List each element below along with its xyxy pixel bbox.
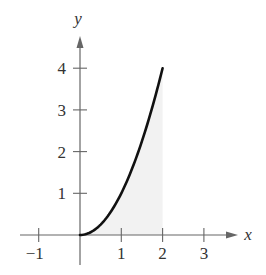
x-tick-label: 1: [117, 244, 126, 263]
x-tick-label: −1: [26, 244, 44, 263]
shaded-region: [80, 68, 163, 235]
shaded-area: [80, 68, 163, 235]
y-tick-label: 1: [58, 184, 67, 203]
x-tick-label: 3: [200, 244, 209, 263]
y-tick-label: 4: [58, 59, 67, 78]
y-axis-arrow-icon: [77, 36, 84, 48]
chart: −11231234xy: [0, 0, 266, 275]
x-tick-label: 2: [158, 244, 167, 263]
x-axis-label: x: [243, 225, 252, 244]
y-axis-label: y: [72, 9, 82, 28]
x-axis-arrow-icon: [226, 232, 238, 239]
y-tick-label: 2: [58, 143, 67, 162]
y-tick-label: 3: [58, 101, 67, 120]
